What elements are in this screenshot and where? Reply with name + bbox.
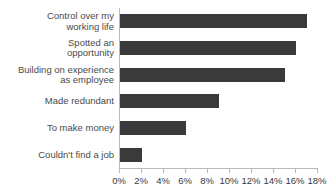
bar — [120, 148, 142, 162]
x-axis-tick — [251, 168, 252, 173]
bar-row: Couldn't find a job — [0, 141, 331, 168]
bar-chart: Control over my working lifeSpotted an o… — [0, 0, 331, 196]
x-axis-tick — [141, 168, 142, 173]
x-axis-tick-label: 18% — [304, 175, 330, 186]
x-axis-tick — [273, 168, 274, 173]
bar-row: Building on experience as employee — [0, 61, 331, 88]
bar — [120, 68, 285, 82]
category-label: Control over my working life — [2, 11, 114, 32]
x-axis-tick — [317, 168, 318, 173]
x-axis-tick — [295, 168, 296, 173]
x-axis-tick — [229, 168, 230, 173]
category-label: Spotted an opportunity — [2, 37, 114, 58]
category-label: Made redundant — [2, 96, 114, 107]
x-axis-line — [119, 168, 318, 169]
category-label: Building on experience as employee — [2, 64, 114, 85]
x-axis-tick — [207, 168, 208, 173]
bar-row: To make money — [0, 115, 331, 142]
x-axis-tick — [185, 168, 186, 173]
category-label: To make money — [2, 123, 114, 134]
bar-row: Made redundant — [0, 88, 331, 115]
x-axis-tick — [163, 168, 164, 173]
bar — [120, 121, 186, 135]
bar-row: Control over my working life — [0, 8, 331, 35]
x-axis-tick — [119, 168, 120, 173]
bar-row: Spotted an opportunity — [0, 35, 331, 62]
category-label: Couldn't find a job — [2, 149, 114, 160]
bar — [120, 14, 307, 28]
bar — [120, 41, 296, 55]
bar — [120, 94, 219, 108]
